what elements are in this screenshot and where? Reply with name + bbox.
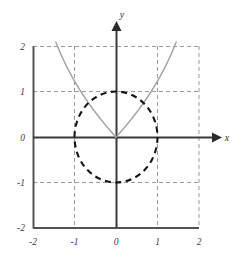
y-axis-label: y xyxy=(119,9,125,20)
y-tick-labels: 2 1 0 -1 -2 xyxy=(17,42,25,233)
x-tick-labels: -2 -1 0 1 2 xyxy=(29,237,202,247)
graph-plot: x y 2 1 0 -1 -2 -2 -1 0 1 2 xyxy=(0,0,251,262)
x-tick-label-0: 0 xyxy=(114,237,119,247)
y-tick-label-minus2: -2 xyxy=(17,223,25,233)
figure-container: x y 2 1 0 -1 -2 -2 -1 0 1 2 xyxy=(0,0,251,262)
y-axis-arrowhead xyxy=(112,21,122,31)
y-tick-label-minus1: -1 xyxy=(17,178,25,188)
x-axis-arrowhead xyxy=(212,133,222,143)
x-axis-label: x xyxy=(224,132,230,143)
x-tick-label-2: 2 xyxy=(197,237,202,247)
x-tick-label-minus2: -2 xyxy=(29,237,37,247)
y-tick-label-0: 0 xyxy=(20,133,25,143)
x-tick-label-1: 1 xyxy=(155,237,160,247)
y-tick-label-1: 1 xyxy=(20,87,25,97)
x-tick-label-minus1: -1 xyxy=(71,237,79,247)
y-tick-label-2: 2 xyxy=(20,42,25,52)
